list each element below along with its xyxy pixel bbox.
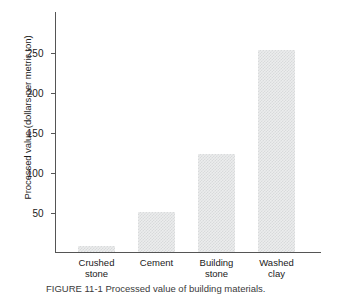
plot-area: 250 200 150 100 50 Crushed stone Cement … [55, 12, 321, 253]
y-axis-tick-label-250: 250 [27, 47, 44, 58]
x-axis-label-washed-clay: Washed clay [246, 257, 307, 279]
y-axis-tick-100: 100 [51, 173, 56, 174]
x-axis-line [55, 252, 321, 253]
y-axis-tick-50: 50 [51, 213, 56, 214]
y-axis-tick-label-150: 150 [27, 127, 44, 138]
x-axis-label-crushed-stone: Crushed stone [66, 257, 127, 279]
y-axis-tick-label-200: 200 [27, 87, 44, 98]
x-axis-label-building-stone: Building stone [186, 257, 247, 279]
bar-building-stone [198, 154, 235, 252]
y-axis-tick-label-100: 100 [27, 167, 44, 178]
y-axis-tick-250: 250 [51, 53, 56, 54]
y-axis-tick-label-50: 50 [32, 207, 43, 218]
y-axis-tick-150: 150 [51, 133, 56, 134]
x-axis-label-cement: Cement [126, 257, 187, 268]
y-axis-tick-200: 200 [51, 93, 56, 94]
y-axis-title: Processed value (dollars per metric ton) [22, 13, 33, 223]
figure-caption: FIGURE 11-1 Processed value of building … [46, 283, 326, 294]
bar-cement [138, 212, 175, 252]
bar-crushed-stone [78, 246, 115, 252]
bar-washed-clay [258, 50, 295, 252]
